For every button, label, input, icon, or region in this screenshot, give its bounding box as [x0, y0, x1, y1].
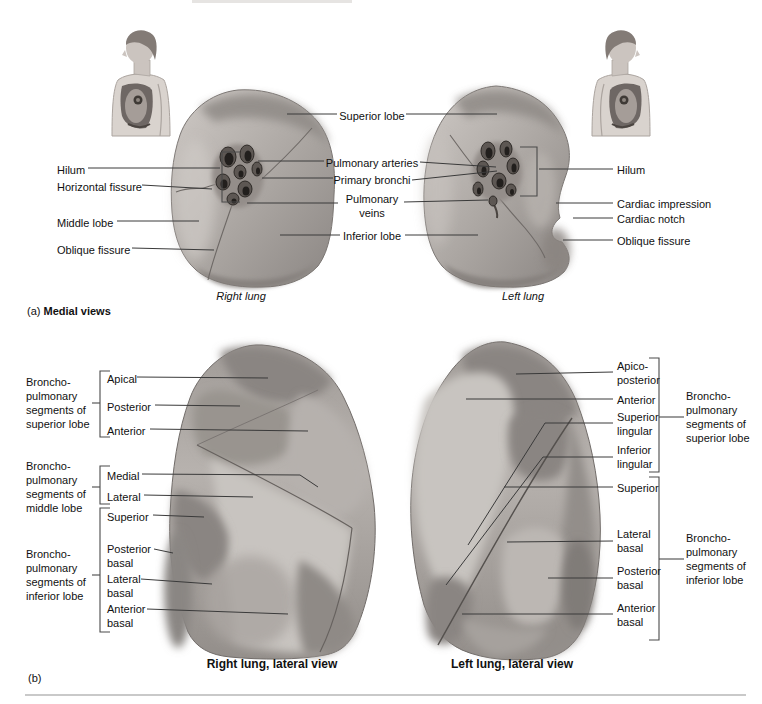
caption-right-lung: Right lung [191, 289, 291, 303]
label-anterior-basal-right: Anterior basal [107, 602, 157, 630]
label-lateral: Lateral [107, 490, 141, 504]
label-lateral-basal-left: Lateral basal [617, 527, 671, 555]
label-posterior-basal-left: Posterior basal [617, 564, 671, 592]
right-lung-lateral-illustration [164, 345, 375, 659]
label-anterior: Anterior [107, 424, 146, 438]
segment-posterior-basal-left [562, 540, 594, 630]
group-label-superior-lobe-right: Broncho-pulmonary segments of superior l… [26, 375, 96, 431]
label-hilum-right: Hilum [57, 163, 85, 177]
label-superior-seg-left: Superior [617, 481, 659, 495]
label-inferior-lobe: Inferior lobe [322, 229, 422, 243]
label-middle-lobe: Middle lobe [57, 216, 113, 230]
segment-posterior-basal [164, 532, 192, 648]
label-superior-seg-right: Superior [107, 510, 149, 524]
label-apico-posterior: Apico-posterior [617, 359, 671, 387]
label-inferior-lingular: Inferior lingular [617, 443, 671, 471]
label-cardiac-impression: Cardiac impression [617, 197, 711, 211]
label-primary-bronchi: Primary bronchi [322, 173, 422, 187]
human-figure-left-icon [112, 30, 170, 136]
group-label-superior-lobe-left: Broncho-pulmonary segments of superior l… [686, 389, 758, 445]
caption-left-lung-lateral: Left lung, lateral view [432, 657, 592, 671]
panel-a-caption: (a) Medial views [27, 305, 111, 317]
label-superior-lingular: Superior lingular [617, 410, 671, 438]
group-label-inferior-lobe-right: Broncho-pulmonary segments of inferior l… [26, 547, 96, 603]
group-label-middle-lobe-right: Broncho-pulmonary segments of middle lob… [26, 459, 96, 515]
panel-b-tag: (b) [28, 672, 41, 684]
label-cardiac-notch: Cardiac notch [617, 212, 685, 226]
left-lung-lateral-illustration [411, 342, 601, 660]
label-oblique-fissure-right: Oblique fissure [57, 243, 130, 257]
panel-a-tag: (a) [27, 305, 40, 317]
human-figure-right-icon [592, 30, 650, 136]
group-label-inferior-lobe-left: Broncho-pulmonary segments of inferior l… [686, 531, 758, 587]
bottom-divider [25, 694, 746, 696]
panel-a-caption-text: Medial views [44, 305, 111, 317]
label-oblique-fissure-left: Oblique fissure [617, 234, 690, 248]
label-horizontal-fissure: Horizontal fissure [57, 180, 142, 194]
label-hilum-left: Hilum [617, 163, 645, 177]
label-apical: Apical [107, 372, 137, 386]
segment-lateral-basal [205, 556, 295, 648]
label-pulmonary-veins: Pulmonary veins [340, 192, 404, 220]
caption-right-lung-lateral: Right lung, lateral view [192, 657, 352, 671]
left-lung-medial-illustration [424, 86, 570, 288]
label-posterior: Posterior [107, 400, 151, 414]
label-medial: Medial [107, 469, 139, 483]
label-lateral-basal-right: Lateral basal [107, 572, 157, 600]
label-anterior-left: Anterior [617, 393, 656, 407]
anatomy-figure: Hilum Horizontal fissure Middle lobe Obl… [0, 0, 762, 704]
right-lung-medial-illustration [171, 90, 334, 289]
label-superior-lobe: Superior lobe [322, 109, 422, 123]
caption-left-lung: Left lung [473, 289, 573, 303]
label-posterior-basal-right: Posterior basal [107, 542, 157, 570]
label-pulmonary-arteries: Pulmonary arteries [322, 156, 422, 170]
label-anterior-basal-left: Anterior basal [617, 601, 671, 629]
